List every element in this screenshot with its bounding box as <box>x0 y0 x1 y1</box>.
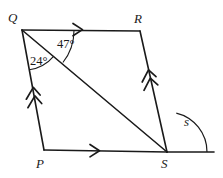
vertex-label-S: S <box>161 157 168 170</box>
side-RS <box>140 31 167 152</box>
geometry-diagram <box>0 0 223 178</box>
vertex-label-P: P <box>36 157 44 170</box>
side-PS <box>44 150 167 152</box>
diagonal-QS <box>22 30 167 152</box>
geometry-figure: Q R S P 47° 24° s <box>0 0 223 178</box>
vertex-label-R: R <box>134 12 142 25</box>
marking-QP-double-arrow <box>26 87 41 107</box>
angle-label-SQP: 24° <box>30 55 48 68</box>
arc-angle-s <box>176 113 207 152</box>
angle-label-s: s <box>184 115 189 128</box>
side-QP <box>22 30 44 150</box>
angle-label-RQS: 47° <box>57 38 75 51</box>
vertex-label-Q: Q <box>8 11 17 24</box>
